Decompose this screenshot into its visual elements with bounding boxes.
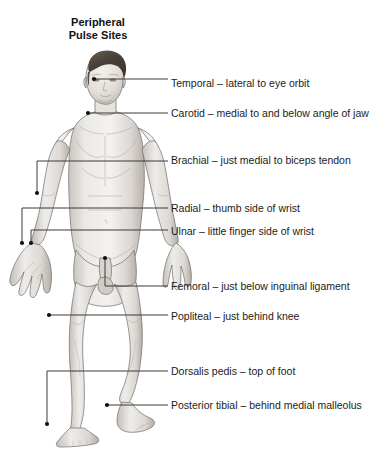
label-carotid: Carotid – medial to and below angle of j… [171,108,369,119]
peripheral-pulse-sites-diagram: Peripheral Pulse Sites [0,0,370,449]
label-temporal: Temporal – lateral to eye orbit [171,78,309,89]
anchor-dot-dorsalis-pedis [45,422,49,426]
anchor-dot-popliteal [47,313,51,317]
anchor-dot-brachial [35,191,39,195]
anchor-dot-femoral [103,256,107,260]
label-posterior-tibial: Posterior tibial – behind medial malleol… [171,400,362,411]
leader-line-radial [22,208,168,243]
anchor-dot-ulnar [29,241,33,245]
label-radial: Radial – thumb side of wrist [171,203,300,214]
label-popliteal: Popliteal – just behind knee [171,311,299,322]
label-femoral: Femoral – just below inguinal ligament [171,281,350,292]
anchor-dot-carotid [86,111,90,115]
label-ulnar: Ulnar – little finger side of wrist [171,226,314,237]
label-dorsalis-pedis: Dorsalis pedis – top of foot [171,366,295,377]
leader-line-dorsalis-pedis [47,371,168,424]
anchor-dot-temporal [92,77,96,81]
leader-line-femoral [105,258,168,286]
leader-line-brachial [37,161,168,193]
anchor-dot-posterior-tibial [105,403,109,407]
leader-line-ulnar [31,230,168,243]
label-brachial: Brachial – just medial to biceps tendon [171,155,351,166]
anchor-dot-radial [20,241,24,245]
